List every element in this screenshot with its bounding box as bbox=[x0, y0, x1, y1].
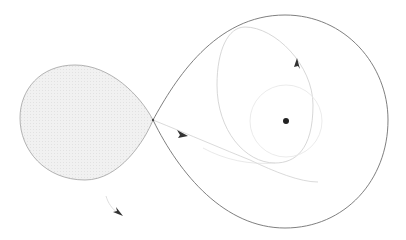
big-loop bbox=[153, 15, 388, 228]
diagram-canvas bbox=[0, 0, 406, 240]
escape-arrow-icon bbox=[113, 207, 123, 216]
outgoing-trajectory bbox=[153, 120, 318, 182]
trajectory-diagram bbox=[0, 0, 406, 240]
orbit-arrow-icon bbox=[294, 58, 300, 69]
central-body bbox=[283, 118, 289, 124]
orbit-path bbox=[217, 27, 313, 163]
left-lobe bbox=[20, 65, 153, 180]
crossing-point bbox=[152, 119, 154, 121]
